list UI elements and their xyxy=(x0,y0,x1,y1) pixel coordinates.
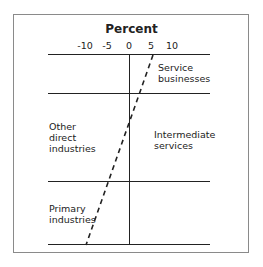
label-intermediate-services: Intermediate services xyxy=(154,129,215,151)
dashed-trend-line xyxy=(0,0,263,267)
label-other-direct-industries: Other direct industries xyxy=(49,121,96,154)
label-primary-industries: Primary industries xyxy=(49,203,96,225)
label-service-businesses: Service businesses xyxy=(158,62,210,84)
